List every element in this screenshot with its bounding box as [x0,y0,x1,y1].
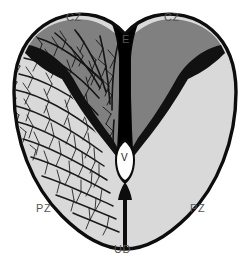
figure-canvas: CZ CZ E V PZ PZ UD [0,0,250,264]
label-v: V [121,152,128,163]
midline-stem [123,196,126,249]
label-e: E [122,33,130,45]
label-cz-right: CZ [164,11,180,23]
label-ud: UD [114,243,131,255]
label-pz-right: PZ [190,202,205,214]
label-pz-left: PZ [36,202,51,214]
label-cz-left: CZ [66,11,82,23]
